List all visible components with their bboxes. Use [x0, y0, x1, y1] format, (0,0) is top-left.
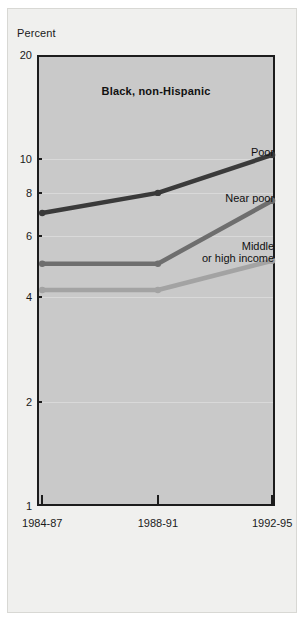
x-tick-mark: [271, 495, 273, 504]
y-tick-mark: [37, 158, 42, 160]
y-tick-label: 2: [0, 396, 32, 408]
gridline: [39, 297, 273, 298]
gridline: [39, 236, 273, 237]
y-tick-mark: [37, 235, 42, 237]
y-tick-mark: [37, 401, 42, 403]
series-label: Poor: [251, 146, 274, 158]
x-tick-label: 1988-91: [138, 517, 178, 529]
plot-area: Black, non-Hispanic: [37, 55, 275, 506]
series-label: Near poor: [225, 192, 274, 204]
y-tick-label: 20: [0, 49, 32, 61]
y-tick-label: 6: [0, 230, 32, 242]
gridline: [39, 402, 273, 403]
x-tick-label: 1992-95: [252, 517, 292, 529]
y-tick-label: 1: [0, 500, 32, 512]
x-tick-mark: [41, 495, 43, 504]
x-tick-label: 1984-87: [22, 517, 62, 529]
x-tick-mark: [157, 495, 159, 504]
series-label: Middle or high income: [202, 240, 274, 264]
y-tick-label: 4: [0, 291, 32, 303]
plot-inner: [39, 57, 273, 504]
y-axis-caption: Percent: [17, 27, 56, 39]
y-tick-mark: [37, 192, 42, 194]
y-tick-label: 10: [0, 153, 32, 165]
y-tick-mark: [37, 296, 42, 298]
chart-title: Black, non-Hispanic: [39, 85, 273, 97]
chart-figure: Percent Black, non-Hispanic 124681020198…: [0, 0, 304, 621]
gridline: [39, 159, 273, 160]
y-tick-label: 8: [0, 187, 32, 199]
